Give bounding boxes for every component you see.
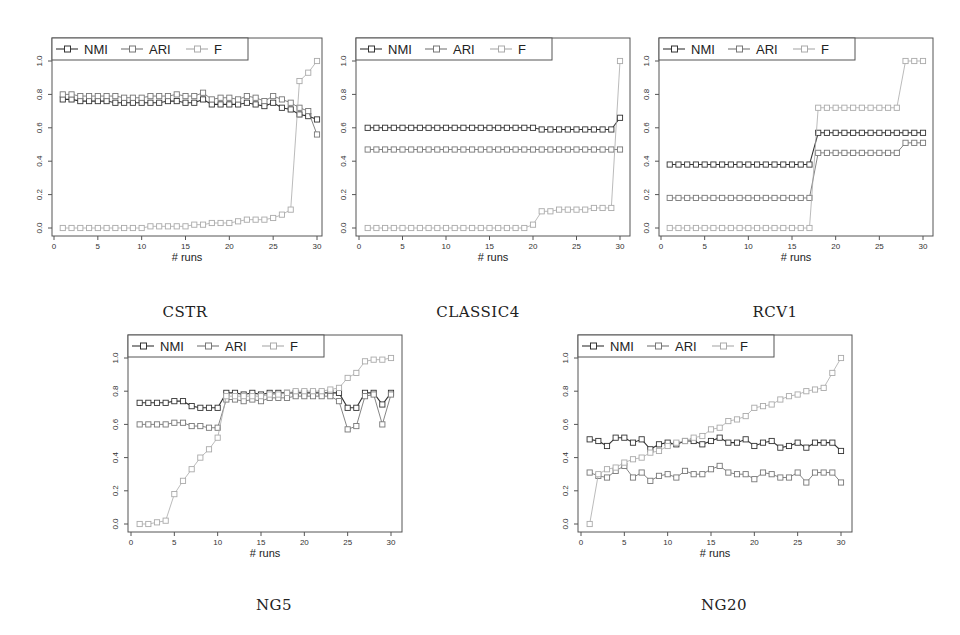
- data-point: [812, 470, 817, 475]
- data-point: [648, 478, 653, 483]
- caption-classic4: CLASSIC4: [378, 303, 578, 321]
- data-point: [812, 387, 817, 392]
- data-point: [743, 472, 748, 477]
- data-point: [648, 450, 653, 455]
- data-point: [769, 402, 774, 407]
- x-tick-label: 10: [663, 538, 672, 547]
- data-point: [760, 404, 765, 409]
- data-point: [795, 440, 800, 445]
- data-point: [674, 440, 679, 445]
- legend-label-ari: ARI: [675, 339, 697, 354]
- data-point: [674, 475, 679, 480]
- data-point: [830, 470, 835, 475]
- x-tick-label: 20: [750, 538, 759, 547]
- data-point: [708, 427, 713, 432]
- data-point: [838, 355, 843, 360]
- data-point: [604, 443, 609, 448]
- data-point: [760, 470, 765, 475]
- data-point: [622, 435, 627, 440]
- data-point: [778, 445, 783, 450]
- data-point: [682, 438, 687, 443]
- data-point: [726, 418, 731, 423]
- x-tick-label: 0: [579, 538, 584, 547]
- y-tick-label: 0.6: [561, 418, 570, 430]
- data-point: [804, 480, 809, 485]
- data-point: [656, 473, 661, 478]
- data-point: [656, 448, 661, 453]
- data-point: [587, 521, 592, 526]
- data-point: [743, 414, 748, 419]
- chart-panel-ng20: 051015202530# runs0.00.20.40.60.81.0NMIA…: [0, 0, 960, 600]
- data-point: [691, 472, 696, 477]
- data-point: [734, 440, 739, 445]
- data-point: [700, 442, 705, 447]
- data-point: [778, 397, 783, 402]
- data-point: [596, 438, 601, 443]
- data-point: [821, 470, 826, 475]
- data-point: [596, 472, 601, 477]
- data-point: [622, 460, 627, 465]
- y-tick-label: 1.0: [561, 352, 570, 364]
- data-point: [786, 443, 791, 448]
- data-point: [691, 435, 696, 440]
- data-point: [726, 440, 731, 445]
- data-point: [639, 470, 644, 475]
- data-point: [717, 463, 722, 468]
- data-point: [734, 472, 739, 477]
- data-point: [795, 470, 800, 475]
- data-point: [613, 435, 618, 440]
- data-point: [656, 442, 661, 447]
- data-point: [838, 448, 843, 453]
- data-point: [812, 440, 817, 445]
- data-point: [717, 435, 722, 440]
- data-point: [630, 457, 635, 462]
- data-point: [830, 370, 835, 375]
- data-point: [604, 475, 609, 480]
- data-point: [830, 440, 835, 445]
- x-tick-label: 25: [793, 538, 802, 547]
- data-point: [778, 475, 783, 480]
- data-point: [639, 437, 644, 442]
- data-point: [665, 443, 670, 448]
- data-point: [726, 470, 731, 475]
- data-point: [630, 475, 635, 480]
- caption-cstr: CSTR: [85, 303, 285, 321]
- data-point: [630, 440, 635, 445]
- data-point: [821, 440, 826, 445]
- data-point: [821, 385, 826, 390]
- data-point: [786, 394, 791, 399]
- plot-frame: [578, 335, 852, 532]
- caption-ng5: NG5: [174, 596, 374, 614]
- data-point: [587, 470, 592, 475]
- data-point: [717, 425, 722, 430]
- data-point: [665, 472, 670, 477]
- data-point: [708, 438, 713, 443]
- data-point: [804, 389, 809, 394]
- data-point: [769, 438, 774, 443]
- caption-rcv1: RCV1: [675, 303, 875, 321]
- y-tick-label: 0.4: [561, 451, 570, 463]
- data-point: [838, 480, 843, 485]
- data-point: [734, 417, 739, 422]
- data-point: [743, 437, 748, 442]
- data-point: [752, 405, 757, 410]
- legend-label-f: F: [740, 339, 748, 354]
- chart-ng20: 051015202530# runs0.00.20.40.60.81.0NMIA…: [0, 0, 960, 580]
- legend-marker-nmi: [591, 343, 597, 349]
- data-point: [786, 475, 791, 480]
- series-line-f: [590, 358, 841, 524]
- y-tick-label: 0.0: [561, 518, 570, 530]
- x-tick-label: 30: [837, 538, 846, 547]
- data-point: [613, 465, 618, 470]
- caption-ng20: NG20: [624, 596, 824, 614]
- legend-marker-ari: [656, 343, 662, 349]
- data-point: [700, 433, 705, 438]
- data-point: [639, 455, 644, 460]
- x-axis-label: # runs: [700, 547, 731, 559]
- data-point: [604, 467, 609, 472]
- data-point: [708, 467, 713, 472]
- data-point: [752, 443, 757, 448]
- data-point: [587, 437, 592, 442]
- legend-marker-f: [721, 343, 727, 349]
- x-tick-label: 15: [707, 538, 716, 547]
